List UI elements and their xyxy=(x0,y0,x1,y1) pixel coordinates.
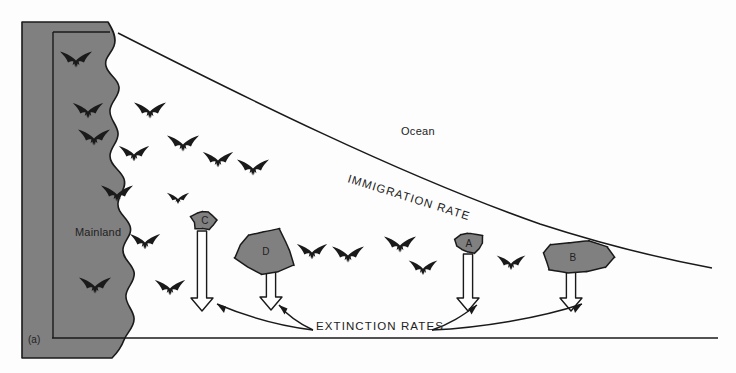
bird-icon xyxy=(297,244,327,259)
island-a: A xyxy=(455,233,483,311)
island-biogeography-figure: CDAB Mainland Ocean IMMIGRATION RATE EXT… xyxy=(0,0,736,373)
panel-label: (a) xyxy=(28,334,40,345)
bird-icon xyxy=(384,237,416,253)
bird-icon xyxy=(130,234,160,249)
bird-icon xyxy=(332,247,364,263)
island-label-c: C xyxy=(201,215,209,226)
mainland-label: Mainland xyxy=(75,226,121,238)
bird-icon xyxy=(203,152,233,167)
extinction-arrow-c xyxy=(191,231,213,311)
bird-icon xyxy=(167,136,199,152)
extinction-arrow-a xyxy=(457,254,479,311)
bird-icon xyxy=(155,280,185,295)
bird-icon xyxy=(134,103,166,119)
bird-icon xyxy=(237,160,269,176)
island-d: D xyxy=(234,229,294,310)
island-c: C xyxy=(190,211,217,311)
ocean-label: Ocean xyxy=(401,125,435,137)
mainland-landmass xyxy=(22,22,134,358)
island-b: B xyxy=(543,241,614,311)
bird-icon xyxy=(409,261,438,275)
bird-icon xyxy=(167,193,189,204)
extinction-arrow-to-b xyxy=(432,304,582,330)
island-label-b: B xyxy=(569,252,576,263)
immigration-rate-label: IMMIGRATION RATE xyxy=(346,172,471,222)
bird-icon xyxy=(497,256,526,270)
island-group: CDAB xyxy=(190,211,614,311)
island-label-a: A xyxy=(465,238,472,249)
bird-icon xyxy=(119,146,149,161)
extinction-rates-label: EXTINCTION RATES xyxy=(316,320,444,332)
island-shape-b xyxy=(543,241,614,273)
island-label-d: D xyxy=(262,246,270,257)
extinction-arrow-to-c xyxy=(217,304,313,330)
figure-canvas: CDAB Mainland Ocean IMMIGRATION RATE EXT… xyxy=(0,0,736,373)
arrowhead-c xyxy=(217,304,226,313)
extinction-arrow-d xyxy=(260,272,282,310)
